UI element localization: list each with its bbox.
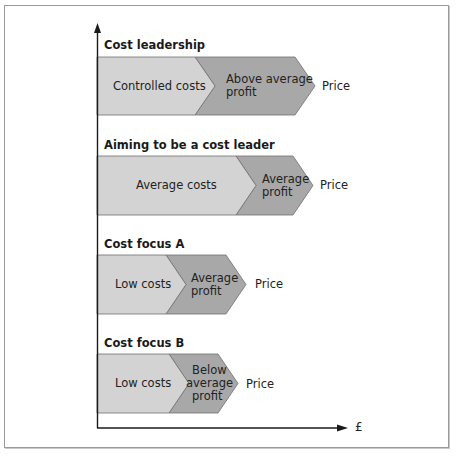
y-axis-arrowhead-icon	[94, 23, 101, 33]
x-axis-label: £	[355, 420, 363, 434]
profit-label-line: profit	[191, 285, 222, 298]
price-label: Price	[320, 178, 348, 192]
cost-label: Controlled costs	[113, 80, 206, 93]
cost-label: Average costs	[136, 179, 217, 192]
profit-label-line: profit	[262, 186, 293, 199]
profit-label-line: profit	[192, 390, 223, 403]
row-title: Aiming to be a cost leader	[104, 138, 275, 152]
profit-label-line: profit	[226, 86, 257, 99]
row-title: Cost focus B	[104, 336, 184, 350]
price-label: Price	[246, 377, 274, 391]
price-label: Price	[322, 79, 350, 93]
row-title: Cost focus A	[104, 237, 184, 251]
row-title: Cost leadership	[104, 38, 205, 52]
price-label: Price	[255, 277, 283, 291]
cost-label: Low costs	[115, 278, 171, 291]
diagram-canvas	[0, 0, 456, 459]
cost-label: Low costs	[115, 377, 171, 390]
x-axis-arrowhead-icon	[337, 425, 348, 432]
